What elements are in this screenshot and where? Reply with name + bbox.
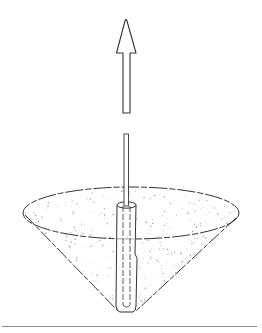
- figure-canvas: [0, 0, 262, 333]
- up-arrow-icon: [117, 20, 137, 113]
- rod: [124, 134, 129, 206]
- tube: [116, 202, 137, 312]
